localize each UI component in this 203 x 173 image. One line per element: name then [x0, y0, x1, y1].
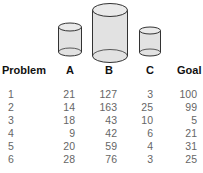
cell-problem: 5	[8, 140, 14, 152]
table-row: 5 20 59 4 31	[0, 140, 203, 153]
cell-c: 10	[141, 114, 153, 126]
cell-c: 3	[147, 153, 153, 165]
cell-goal: 99	[185, 101, 197, 113]
cell-problem: 2	[8, 101, 14, 113]
cell-b: 43	[105, 114, 117, 126]
cell-b: 163	[99, 101, 117, 113]
cell-c: 3	[147, 88, 153, 100]
cell-problem: 4	[8, 127, 14, 139]
header-c: C	[146, 64, 154, 76]
cell-b: 59	[105, 140, 117, 152]
cell-problem: 6	[8, 153, 14, 165]
jar-c-icon	[138, 26, 162, 58]
cell-b: 42	[105, 127, 117, 139]
cell-a: 28	[63, 153, 75, 165]
cell-problem: 3	[8, 114, 14, 126]
cell-a: 21	[63, 88, 75, 100]
cell-problem: 1	[8, 88, 14, 100]
cell-a: 9	[69, 127, 75, 139]
cell-b: 127	[99, 88, 117, 100]
cell-goal: 25	[185, 153, 197, 165]
cell-c: 4	[147, 140, 153, 152]
header-b: B	[105, 64, 113, 76]
cell-a: 20	[63, 140, 75, 152]
cell-goal: 5	[191, 114, 197, 126]
cell-a: 18	[63, 114, 75, 126]
cell-goal: 21	[185, 127, 197, 139]
cell-goal: 100	[179, 88, 197, 100]
header-problem: Problem	[2, 64, 46, 76]
table-row: 3 18 43 10 5	[0, 114, 203, 127]
cell-c: 6	[147, 127, 153, 139]
table-row: 1 21 127 3 100	[0, 88, 203, 101]
table-row: 6 28 76 3 25	[0, 153, 203, 166]
cell-goal: 31	[185, 140, 197, 152]
header-goal: Goal	[177, 64, 201, 76]
header-a: A	[66, 64, 74, 76]
table-row: 2 14 163 25 99	[0, 101, 203, 114]
cell-c: 25	[141, 101, 153, 113]
table-row: 4 9 42 6 21	[0, 127, 203, 140]
cell-a: 14	[63, 101, 75, 113]
jar-b-icon	[91, 2, 129, 65]
cell-b: 76	[105, 153, 117, 165]
jar-a-icon	[57, 22, 83, 58]
